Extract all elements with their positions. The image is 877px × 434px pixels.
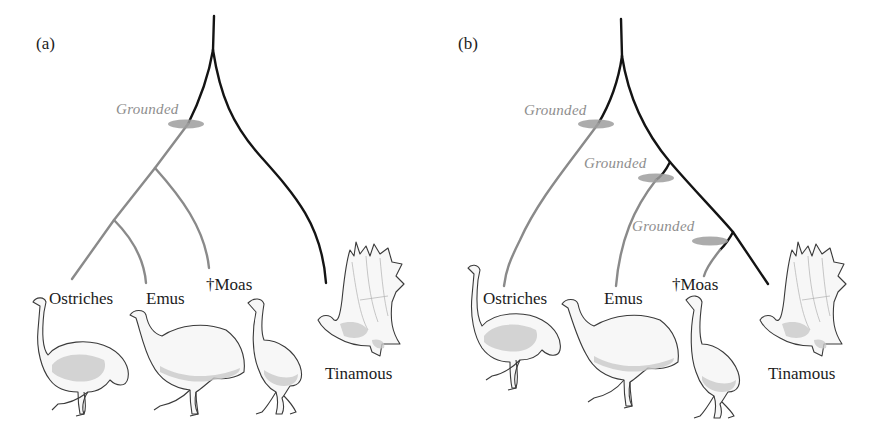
- ostrich-illustration: [33, 298, 128, 416]
- grounded-label: Grounded: [116, 101, 179, 118]
- branch-moas: [155, 168, 209, 268]
- panel-a: (a) Grounded Ostriches Emus †Moas Tinamo…: [0, 0, 438, 434]
- taxon-label-tinamous: Tinamous: [768, 364, 835, 384]
- branch-ostriches: [72, 124, 188, 279]
- taxon-label-moas: †Moas: [206, 275, 252, 295]
- emu-illustration: [562, 300, 678, 409]
- grounded-marker-1: [578, 120, 614, 129]
- ostrich-illustration: [468, 265, 560, 390]
- branch-emus: [114, 220, 146, 283]
- grounded-label-1: Grounded: [524, 102, 587, 119]
- root-stem: [213, 16, 214, 50]
- grounded-label-3: Grounded: [632, 218, 695, 235]
- taxon-label-ostriches: Ostriches: [49, 289, 113, 309]
- grounded-marker: [168, 120, 204, 129]
- moa-illustration: [686, 296, 740, 418]
- panel-b: (b) Grounded Grounded Grounded Ostriches…: [438, 0, 877, 434]
- grounded-label-2: Grounded: [584, 155, 647, 172]
- grounded-marker-3: [692, 237, 728, 246]
- branch-ancestor-ratites: [188, 50, 213, 124]
- branch-moas: [704, 250, 720, 276]
- grounded-marker-2: [638, 174, 674, 183]
- root-stem: [621, 19, 622, 56]
- taxon-label-tinamous: Tinamous: [325, 364, 392, 384]
- tinamou-illustration: [318, 242, 404, 356]
- moa-illustration: [248, 299, 302, 414]
- taxon-label-moas: †Moas: [672, 275, 718, 295]
- tinamou-illustration: [760, 242, 846, 356]
- branch-ostriches: [504, 124, 598, 286]
- taxon-label-emus: Emus: [146, 289, 185, 309]
- emu-illustration: [130, 311, 244, 417]
- taxon-label-emus: Emus: [604, 289, 643, 309]
- branch-ancestor-ostriches: [598, 56, 622, 124]
- branch-tinamous: [213, 50, 326, 283]
- taxon-label-ostriches: Ostriches: [483, 289, 547, 309]
- panel-label-b: (b): [458, 34, 478, 54]
- panel-label-a: (a): [36, 34, 55, 54]
